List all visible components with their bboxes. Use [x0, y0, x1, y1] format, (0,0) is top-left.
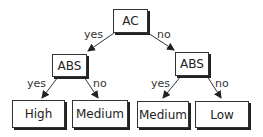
edge-label-yes: yes [84, 28, 103, 41]
leaf-medium-right: Medium [137, 101, 189, 128]
node-right-abs: ABS [175, 52, 209, 76]
edge-label-yes: yes [151, 77, 170, 90]
leaf-medium-left: Medium [72, 100, 128, 128]
edge-label-no: no [93, 77, 107, 90]
edge-label-no: no [157, 28, 171, 41]
node-root-ac: AC [113, 9, 148, 33]
leaf-low: Low [195, 101, 249, 128]
leaf-high: High [12, 100, 65, 128]
edge-label-no: no [215, 77, 229, 90]
edge-label-yes: yes [27, 77, 46, 90]
node-left-abs: ABS [52, 54, 87, 77]
